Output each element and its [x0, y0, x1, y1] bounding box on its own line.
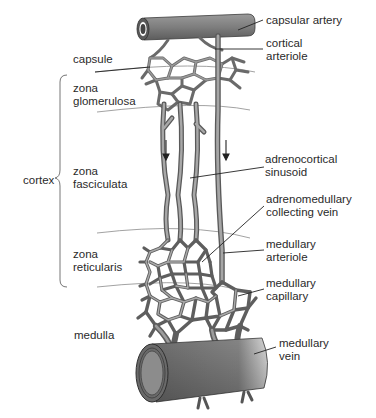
label-cortex: cortex [23, 174, 54, 187]
label-adrenomedullary-collecting-vein: adrenomedullary collecting vein [266, 193, 352, 219]
reticularis-network [140, 240, 216, 302]
label-zona-fasciculata: zona fasciculata [73, 165, 127, 191]
capsular-artery [137, 14, 255, 40]
label-zona-reticularis: zona reticularis [73, 248, 122, 274]
label-medullary-capillary: medullary capillary [266, 277, 316, 303]
cortex-bracket [55, 75, 67, 287]
adrenal-blood-supply-diagram: capsule zona glomerulosa cortex zona fas… [0, 0, 376, 418]
medullary-vein [136, 338, 268, 408]
leader-adrenocortical-sinusoid [190, 167, 264, 178]
leader-capsule [95, 67, 150, 72]
label-zona-glomerulosa: zona glomerulosa [73, 82, 136, 108]
label-medullary-vein: medullary vein [279, 337, 329, 363]
label-cortical-arteriole: cortical arteriole [266, 37, 308, 63]
adrenocortical-sinusoids [163, 104, 204, 240]
label-capsular-artery: capsular artery [266, 14, 342, 27]
label-medullary-arteriole: medullary arteriole [266, 238, 316, 264]
label-adrenocortical-sinusoid: adrenocortical sinusoid [265, 153, 337, 179]
label-capsule: capsule [73, 53, 113, 66]
flow-arrow-arteriole [223, 140, 229, 160]
leader-collecting-vein [202, 206, 264, 262]
label-medulla: medulla [74, 329, 114, 342]
leader-medullary-arteriole [223, 250, 264, 253]
capsular-network-stroke [148, 58, 222, 80]
